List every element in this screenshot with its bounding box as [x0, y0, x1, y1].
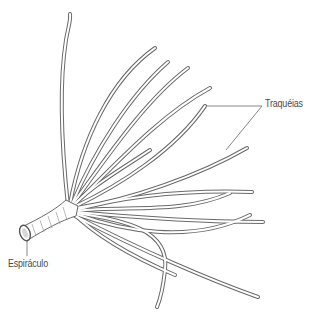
- spiracle-label: Espiráculo: [8, 257, 48, 269]
- tracheae-branches: [62, 14, 263, 307]
- tracheae-label: Traquéias: [265, 97, 303, 109]
- spiracle-trunk: [18, 200, 78, 242]
- figure-caption: [8, 309, 298, 316]
